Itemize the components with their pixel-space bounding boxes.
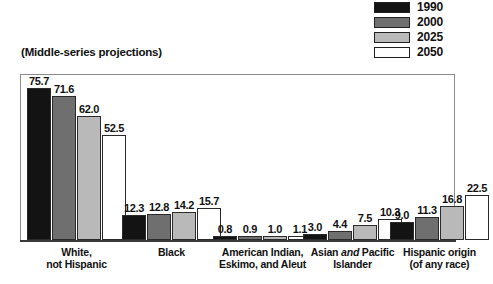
legend-item-2025: 2025 <box>374 30 469 44</box>
legend-label-1990: 1990 <box>417 1 443 13</box>
legend-label-2050: 2050 <box>417 46 443 58</box>
legend-label-2000: 2000 <box>417 16 443 28</box>
legend-swatch-2000 <box>374 17 410 28</box>
legend-swatch-1990 <box>374 2 410 13</box>
legend-label-2025: 2025 <box>417 31 443 43</box>
category-label: Hispanic origin(of any race) <box>355 246 493 270</box>
category-label: White,not Hispanic <box>0 246 161 270</box>
bar-2050 <box>465 195 489 240</box>
chart-legend: 1990 2000 2025 2050 <box>374 0 469 60</box>
legend-item-2000: 2000 <box>374 15 469 29</box>
legend-item-2050: 2050 <box>374 45 469 59</box>
category-label: Asian and PacificIslander <box>268 246 437 270</box>
legend-swatch-2025 <box>374 32 410 43</box>
axis-baseline <box>20 240 456 242</box>
category-label: Black <box>87 246 256 258</box>
bar-column: 22.5 <box>465 195 489 240</box>
plot-frame <box>20 74 455 241</box>
bar-value-label: 22.5 <box>467 183 487 194</box>
legend-swatch-2050 <box>374 47 410 58</box>
chart-subtitle: (Middle-series projections) <box>21 46 162 58</box>
legend-item-1990: 1990 <box>374 0 469 14</box>
category-label: American Indian,Eskimo, and Aleut <box>178 246 347 270</box>
